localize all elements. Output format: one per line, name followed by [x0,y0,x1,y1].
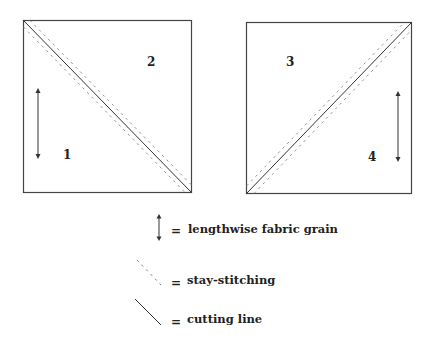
left-cutting-line [24,21,192,193]
grain-arrow-icon [396,91,401,162]
piece-label-2: 2 [147,56,155,68]
left-stay-stitching-lower [24,27,186,193]
piece-label-4: 4 [368,151,376,163]
legend-double-arrow-icon [157,214,162,241]
right-stay-stitching-upper [247,23,405,187]
legend-equals-stitching: = [171,277,181,289]
legend-label-stitching: stay-stitching [187,275,275,287]
legend-equals-grain: = [171,225,181,237]
legend-label-cutting: cutting line [187,314,262,326]
right-cutting-line [247,23,412,194]
right-stay-stitching-lower [254,30,412,194]
right-square [247,23,412,194]
grain-arrow-icon [36,88,41,159]
left-stay-stitching-upper [30,21,192,186]
diagram-canvas [0,0,430,346]
left-square [24,21,192,193]
legend-label-grain: lengthwise fabric grain [188,224,338,236]
legend-solid-line-icon [135,299,161,325]
legend-dashed-line-icon [137,260,161,285]
piece-label-3: 3 [286,56,294,68]
piece-label-1: 1 [63,149,71,161]
legend-equals-cutting: = [171,316,181,328]
